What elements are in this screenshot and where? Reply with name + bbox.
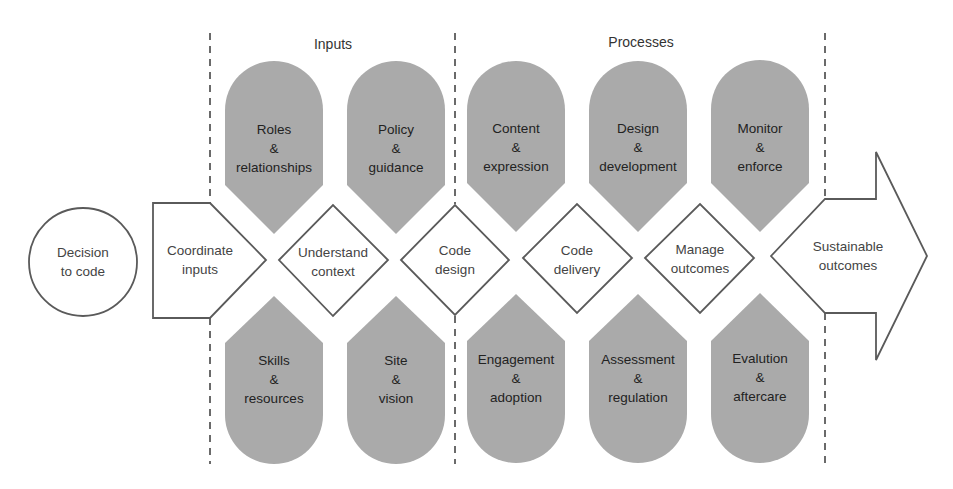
top-petal-label-2: Content & expression [483, 119, 548, 176]
flow-label-line1: Manage [671, 240, 730, 259]
flow-label-coordinate-inputs: Coordinate inputs [167, 241, 233, 279]
bottom-petal-label-0: Skills & resources [244, 351, 303, 408]
end-label-line1: Sustainable [813, 237, 884, 256]
top-petal-label-3: Design & development [599, 119, 676, 176]
petal-line1: Evalution [732, 349, 788, 368]
petal-line2: vision [379, 389, 414, 408]
flow-label-line2: design [435, 260, 475, 279]
section-label-inputs: Inputs [314, 36, 352, 52]
petal-line1: Monitor [737, 119, 782, 138]
petal-amp: & [369, 139, 424, 158]
petal-line2: guidance [369, 158, 424, 177]
flow-label-code-delivery: Code delivery [554, 241, 601, 279]
petal-line1: Content [483, 119, 548, 138]
petal-line2: adoption [478, 388, 555, 407]
bottom-petal-label-1: Site & vision [379, 351, 414, 408]
top-petal-label-1: Policy & guidance [369, 120, 424, 177]
petal-line1: Site [379, 351, 414, 370]
bottom-petal-label-3: Assessment & regulation [601, 350, 675, 407]
start-label: Decision to code [57, 243, 109, 281]
end-label-line2: outcomes [813, 256, 884, 275]
diagram-canvas [0, 0, 953, 489]
flow-label-line2: inputs [167, 260, 233, 279]
section-label-processes: Processes [608, 34, 673, 50]
petal-line1: Roles [236, 120, 312, 139]
petal-line1: Assessment [601, 350, 675, 369]
petal-line1: Skills [244, 351, 303, 370]
petal-amp: & [244, 370, 303, 389]
start-label-line1: Decision [57, 243, 109, 262]
flow-label-line1: Code [435, 241, 475, 260]
bottom-petal-label-2: Engagement & adoption [478, 350, 555, 407]
top-petal-label-0: Roles & relationships [236, 120, 312, 177]
flow-label-line1: Code [554, 241, 601, 260]
petal-line2: expression [483, 157, 548, 176]
petal-amp: & [737, 138, 782, 157]
flow-label-understand-context: Understand context [298, 243, 368, 281]
petal-amp: & [236, 139, 312, 158]
petal-line1: Policy [369, 120, 424, 139]
petal-amp: & [599, 138, 676, 157]
flow-label-code-design: Code design [435, 241, 475, 279]
petal-amp: & [379, 370, 414, 389]
end-label-sustainable-outcomes: Sustainable outcomes [813, 237, 884, 275]
flow-label-line1: Understand [298, 243, 368, 262]
bottom-petal-label-4: Evalution & aftercare [732, 349, 788, 406]
petal-line2: development [599, 157, 676, 176]
petal-line2: enforce [737, 157, 782, 176]
petal-amp: & [732, 368, 788, 387]
petal-line2: relationships [236, 158, 312, 177]
flow-label-line2: outcomes [671, 259, 730, 278]
petal-line2: regulation [601, 388, 675, 407]
flow-label-line2: delivery [554, 260, 601, 279]
flow-label-line2: context [298, 262, 368, 281]
petal-line2: aftercare [732, 387, 788, 406]
flow-label-manage-outcomes: Manage outcomes [671, 240, 730, 278]
petal-line1: Engagement [478, 350, 555, 369]
petal-amp: & [478, 369, 555, 388]
petal-amp: & [483, 138, 548, 157]
start-label-line2: to code [57, 262, 109, 281]
petal-line2: resources [244, 389, 303, 408]
flow-label-line1: Coordinate [167, 241, 233, 260]
petal-amp: & [601, 369, 675, 388]
petal-line1: Design [599, 119, 676, 138]
top-petal-label-4: Monitor & enforce [737, 119, 782, 176]
